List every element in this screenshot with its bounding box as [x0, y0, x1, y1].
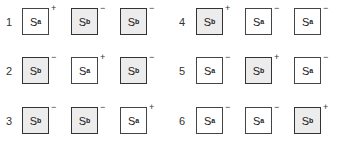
charge-sign: − — [51, 103, 56, 112]
state-subscript: a — [211, 117, 215, 124]
state-symbol: S — [302, 65, 309, 77]
state-box-shaded: Sb — [196, 8, 223, 35]
state-box: Sa — [120, 107, 147, 134]
configuration-number: 6 — [177, 115, 187, 127]
charge-sign: − — [51, 53, 56, 62]
state-box: Sa — [245, 8, 272, 35]
state-subscript: b — [37, 117, 41, 124]
configuration-number: 3 — [4, 115, 14, 127]
state-subscript: a — [135, 117, 139, 124]
charge-sign: − — [225, 103, 230, 112]
state-box: Sa — [22, 8, 49, 35]
state-symbol: S — [253, 65, 260, 77]
state-subscript: b — [86, 18, 90, 25]
state-box-shaded: Sb — [120, 8, 147, 35]
state-symbol: S — [128, 65, 135, 77]
state-symbol: S — [204, 115, 211, 127]
state-symbol: S — [128, 115, 135, 127]
state-box-shaded: Sb — [71, 107, 98, 134]
state-symbol: S — [253, 16, 260, 28]
charge-sign: + — [274, 53, 279, 62]
state-symbol: S — [302, 16, 309, 28]
charge-sign: + — [100, 53, 105, 62]
state-box-shaded: Sb — [120, 57, 147, 84]
charge-sign: + — [323, 103, 328, 112]
state-box-shaded: Sb — [71, 8, 98, 35]
state-subscript: b — [135, 67, 139, 74]
charge-sign: − — [274, 4, 279, 13]
state-symbol: S — [79, 115, 86, 127]
state-subscript: a — [309, 18, 313, 25]
state-subscript: b — [211, 18, 215, 25]
charge-sign: − — [225, 53, 230, 62]
state-box: Sa — [294, 8, 321, 35]
state-box-shaded: Sb — [294, 107, 321, 134]
state-symbol: S — [79, 65, 86, 77]
state-box: Sa — [245, 107, 272, 134]
charge-sign: − — [323, 4, 328, 13]
charge-sign: − — [149, 53, 154, 62]
charge-sign: + — [51, 4, 56, 13]
state-subscript: a — [260, 18, 264, 25]
state-box-shaded: Sb — [245, 57, 272, 84]
state-symbol: S — [79, 16, 86, 28]
state-box-shaded: Sb — [22, 57, 49, 84]
state-symbol: S — [128, 16, 135, 28]
state-symbol: S — [30, 16, 37, 28]
state-symbol: S — [253, 115, 260, 127]
state-box-shaded: Sb — [22, 107, 49, 134]
state-symbol: S — [302, 115, 309, 127]
state-symbol: S — [30, 65, 37, 77]
charge-sign: − — [149, 4, 154, 13]
state-subscript: b — [309, 117, 313, 124]
charge-sign: − — [100, 103, 105, 112]
configuration-number: 2 — [4, 65, 14, 77]
state-box: Sa — [71, 57, 98, 84]
state-subscript: a — [86, 67, 90, 74]
state-subscript: b — [135, 18, 139, 25]
charge-sign: − — [323, 53, 328, 62]
state-box: Sa — [196, 107, 223, 134]
state-subscript: a — [260, 117, 264, 124]
state-box: Sa — [196, 57, 223, 84]
state-symbol: S — [204, 16, 211, 28]
state-subscript: b — [86, 117, 90, 124]
configuration-number: 4 — [177, 16, 187, 28]
state-subscript: a — [37, 18, 41, 25]
state-symbol: S — [30, 115, 37, 127]
state-symbol: S — [204, 65, 211, 77]
charge-sign: + — [149, 103, 154, 112]
state-subscript: a — [309, 67, 313, 74]
charge-sign: − — [274, 103, 279, 112]
charge-sign: − — [100, 4, 105, 13]
configuration-number: 1 — [4, 16, 14, 28]
state-subscript: b — [260, 67, 264, 74]
state-subscript: b — [37, 67, 41, 74]
charge-sign: + — [225, 4, 230, 13]
configuration-number: 5 — [177, 65, 187, 77]
state-box: Sa — [294, 57, 321, 84]
state-subscript: a — [211, 67, 215, 74]
